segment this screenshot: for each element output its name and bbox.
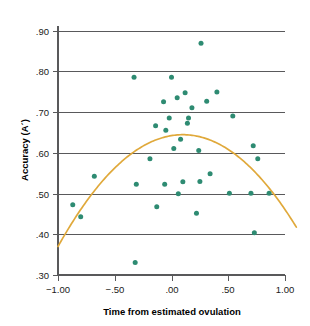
y-tick-label-090: .90	[36, 26, 49, 37]
data-point	[147, 156, 152, 161]
data-point	[248, 191, 253, 196]
data-point	[227, 191, 232, 196]
y-tick-label-060: .60	[36, 148, 49, 159]
data-point	[171, 146, 176, 151]
data-point	[267, 191, 272, 196]
y-tick-label-030: .30	[36, 270, 49, 281]
data-point	[132, 75, 137, 80]
data-point	[186, 116, 191, 121]
x-tick-label-neg050: −.50	[106, 284, 125, 295]
data-point	[92, 174, 97, 179]
data-point	[196, 148, 201, 153]
y-tick-label-040: .40	[36, 229, 49, 240]
x-tick-labels: −1.00 −.50 .00 .50 1.00	[46, 284, 294, 295]
y-tick-label-050: .50	[36, 189, 49, 200]
x-tick-label-100: 1.00	[276, 284, 295, 295]
y-tick-label-070: .70	[36, 107, 49, 118]
x-tick-label-000: .00	[165, 284, 178, 295]
data-point	[185, 121, 190, 126]
x-tick-label-050: .50	[221, 284, 234, 295]
data-point	[167, 116, 172, 121]
data-point	[251, 143, 256, 148]
data-point	[175, 95, 180, 100]
scatter-plot-figure: .90 .80 .70 .60 .50 .40 .30 −1.00 −.50 .…	[0, 0, 310, 326]
data-point	[134, 182, 139, 187]
y-axis-ticks	[53, 31, 58, 275]
gridlines	[58, 31, 285, 234]
data-point	[133, 260, 138, 265]
y-tick-labels: .90 .80 .70 .60 .50 .40 .30	[36, 26, 49, 281]
data-point	[252, 230, 257, 235]
y-tick-label-080: .80	[36, 66, 49, 77]
x-axis-title: Time from estimated ovulation	[103, 306, 241, 317]
data-point	[255, 156, 260, 161]
x-axis-ticks	[58, 275, 285, 281]
data-point	[183, 90, 188, 95]
data-point	[214, 90, 219, 95]
data-point	[163, 128, 168, 133]
data-point	[78, 214, 83, 219]
data-point	[70, 202, 75, 207]
data-point	[176, 191, 181, 196]
data-point	[194, 211, 199, 216]
data-point	[208, 171, 213, 176]
chart-canvas: .90 .80 .70 .60 .50 .40 .30 −1.00 −.50 .…	[0, 0, 310, 326]
data-point	[197, 179, 202, 184]
data-point	[178, 137, 183, 142]
data-point	[153, 123, 158, 128]
data-point	[154, 204, 159, 209]
data-point	[189, 105, 194, 110]
x-tick-label-neg100: −1.00	[46, 284, 70, 295]
data-point	[162, 182, 167, 187]
data-point	[180, 179, 185, 184]
data-point	[199, 41, 204, 46]
data-point	[169, 75, 174, 80]
y-axis-title: Accuracy (A´)	[19, 119, 30, 181]
data-point	[230, 113, 235, 118]
quadratic-fit-curve	[58, 135, 296, 247]
axes	[58, 26, 285, 275]
data-point	[161, 99, 166, 104]
data-point	[204, 99, 209, 104]
